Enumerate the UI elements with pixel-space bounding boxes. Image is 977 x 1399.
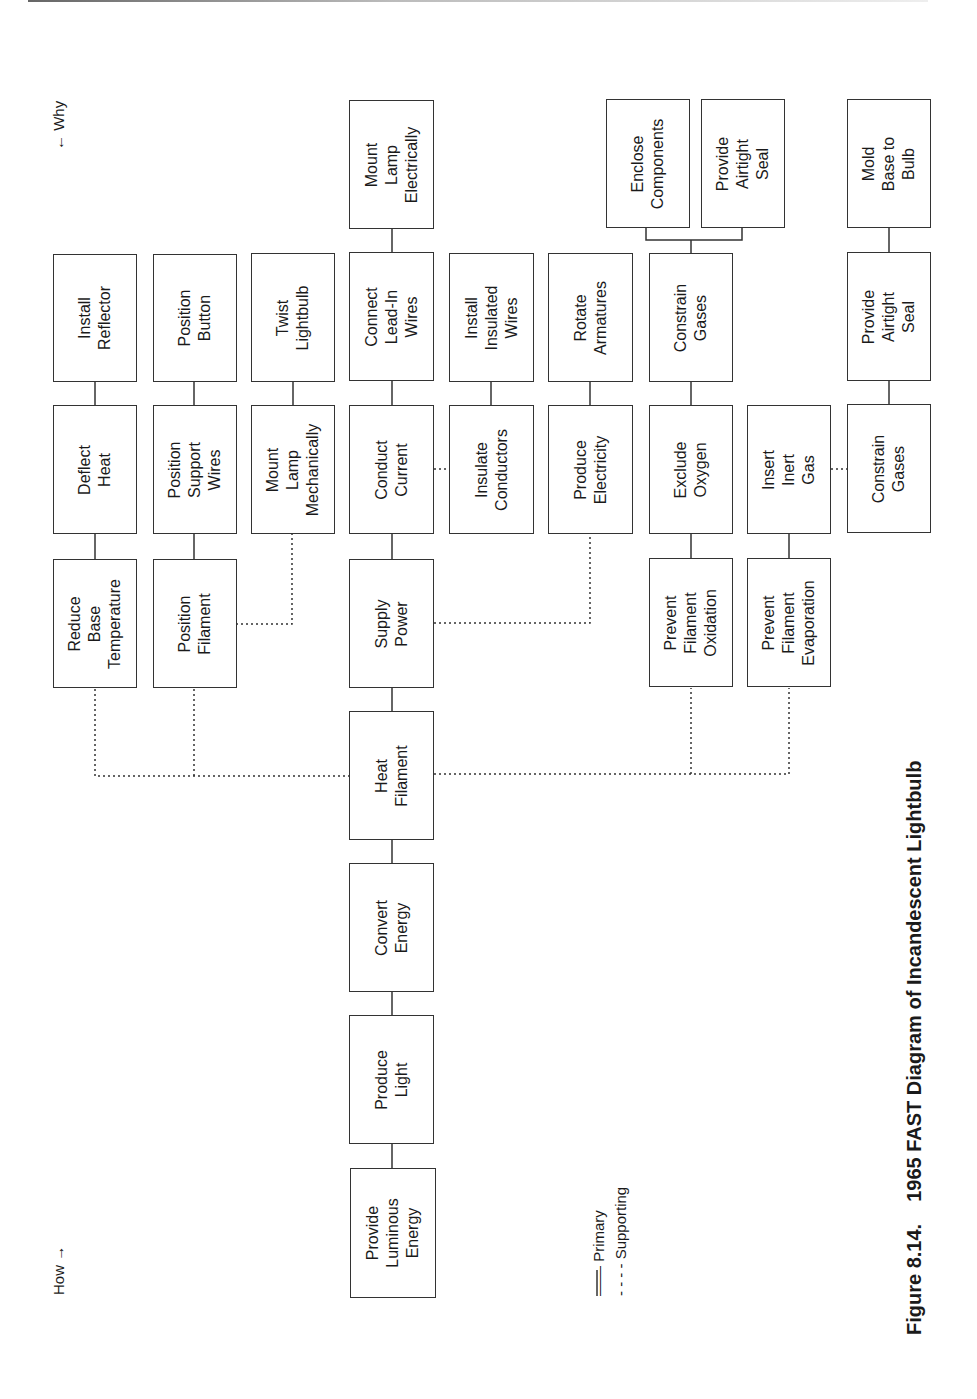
- node-label: Insert Inert Gas: [759, 408, 819, 532]
- node-prevent-filament-oxidation: Prevent Filament Oxidation: [649, 558, 733, 687]
- node-label: Convert Energy: [372, 866, 412, 990]
- node-position-filament: Position Filament: [153, 559, 237, 688]
- node-label: Heat Filament: [372, 714, 412, 838]
- node-label: Mount Lamp Mechanically: [263, 408, 323, 532]
- node-label: Install Reflector: [75, 256, 115, 380]
- node-produce-light: Produce Light: [349, 1015, 434, 1144]
- node-produce-electricity: Produce Electricity: [548, 405, 633, 534]
- node-label: Position Filament: [175, 562, 215, 686]
- node-install-reflector: Install Reflector: [53, 254, 137, 382]
- node-prevent-filament-evaporation: Prevent Filament Evaporation: [747, 558, 831, 687]
- node-label: Conduct Current: [372, 408, 412, 532]
- figure-caption: Figure 8.14.1965 FAST Diagram of Incande…: [903, 761, 926, 1335]
- node-position-support-wires: Position Support Wires: [153, 405, 237, 534]
- node-provide-airtight-seal-2: Provide Airtight Seal: [847, 252, 931, 381]
- primary-line: [646, 228, 742, 240]
- node-supply-power: Supply Power: [349, 559, 434, 688]
- node-enclose-components: Enclose Components: [606, 99, 690, 228]
- node-label: Provide Airtight Seal: [859, 255, 919, 379]
- node-label: Supply Power: [372, 562, 412, 686]
- node-label: Connect Lead-In Wires: [362, 255, 422, 379]
- node-heat-filament: Heat Filament: [349, 711, 434, 840]
- figure-title: 1965 FAST Diagram of Incandescent Lightb…: [903, 761, 925, 1202]
- node-label: Deflect Heat: [75, 408, 115, 532]
- node-rotate-armatures: Rotate Armatures: [548, 253, 633, 382]
- node-label: Enclose Components: [628, 102, 668, 226]
- node-twist-lightbulb: Twist Lightbulb: [251, 253, 335, 382]
- node-provide-luminous-energy: Provide Luminous Energy: [350, 1168, 436, 1298]
- node-conduct-current: Conduct Current: [349, 405, 434, 534]
- node-position-button: Position Button: [153, 254, 237, 382]
- node-label: Install Insulated Wires: [462, 256, 522, 380]
- node-label: Mount Lamp Electrically: [362, 103, 422, 227]
- node-exclude-oxygen: Exclude Oxygen: [649, 405, 733, 534]
- node-label: Reduce Base Temperature: [65, 562, 125, 686]
- node-insert-inert-gas: Insert Inert Gas: [747, 405, 831, 534]
- node-label: Prevent Filament Evaporation: [759, 561, 819, 685]
- why-direction-label: ← Why: [50, 101, 67, 150]
- node-convert-energy: Convert Energy: [349, 863, 434, 992]
- node-label: Constrain Gases: [869, 407, 909, 531]
- node-deflect-heat: Deflect Heat: [53, 405, 137, 534]
- node-label: Constrain Gases: [671, 256, 711, 380]
- node-label: Exclude Oxygen: [671, 408, 711, 532]
- node-label: Position Button: [175, 256, 215, 380]
- supporting-line: [236, 534, 292, 624]
- node-label: Produce Light: [372, 1018, 412, 1142]
- node-install-insulated-wires: Install Insulated Wires: [449, 253, 534, 382]
- node-label: Insulate Conductors: [472, 408, 512, 532]
- node-connect-lead-in-wires: Connect Lead-In Wires: [349, 252, 434, 381]
- connector-lines: [0, 0, 977, 1399]
- node-label: Provide Luminous Energy: [363, 1171, 423, 1295]
- node-mount-lamp-mechanically: Mount Lamp Mechanically: [251, 405, 335, 534]
- legend-primary: —— Primary: [590, 1210, 607, 1296]
- node-label: Provide Airtight Seal: [713, 102, 773, 226]
- supporting-line: [434, 688, 789, 774]
- node-insulate-conductors: Insulate Conductors: [449, 405, 534, 534]
- node-label: Twist Lightbulb: [273, 256, 313, 380]
- node-label: Produce Electricity: [571, 408, 611, 532]
- node-label: Mold Base to Bulb: [859, 102, 919, 226]
- node-label: Rotate Armatures: [571, 256, 611, 380]
- node-constrain-gases: Constrain Gases: [649, 253, 733, 382]
- node-mold-base-to-bulb: Mold Base to Bulb: [847, 99, 931, 228]
- supporting-line: [434, 534, 590, 623]
- how-direction-label: How →: [50, 1246, 67, 1295]
- figure-number: Figure 8.14.: [903, 1224, 925, 1335]
- legend-supporting: - - - - Supporting: [612, 1187, 629, 1296]
- node-provide-airtight-seal: Provide Airtight Seal: [701, 99, 785, 228]
- node-reduce-base-temperature: Reduce Base Temperature: [53, 559, 137, 688]
- node-label: Position Support Wires: [165, 408, 225, 532]
- supporting-line: [95, 688, 350, 776]
- node-mount-lamp-electrically: Mount Lamp Electrically: [349, 100, 434, 229]
- node-label: Prevent Filament Oxidation: [661, 561, 721, 685]
- node-constrain-gases-2: Constrain Gases: [847, 404, 931, 533]
